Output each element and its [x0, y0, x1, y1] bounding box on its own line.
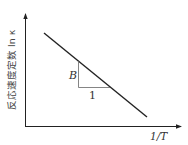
slope-rise-label: B	[68, 69, 77, 82]
x-axis-label: 1/T	[150, 130, 168, 142]
y-axis-label: 反応速度定数 ln κ	[6, 29, 17, 110]
slope-run-label: 1	[89, 89, 96, 102]
ln-k-vs-inverse-t-line	[44, 33, 147, 117]
arrhenius-diagram: B 1 1/T 反応速度定数 ln κ	[0, 0, 188, 145]
